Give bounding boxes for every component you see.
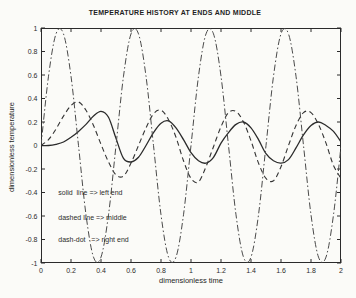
svg-text:-0.2: -0.2	[25, 166, 37, 173]
svg-text:0: 0	[34, 142, 38, 149]
svg-text:0.2: 0.2	[28, 119, 38, 126]
svg-text:0.4: 0.4	[96, 267, 106, 274]
svg-text:-0.6: -0.6	[25, 213, 37, 220]
svg-text:1.2: 1.2	[216, 267, 226, 274]
legend-annotation-2: dash-dot => right end	[58, 236, 129, 244]
svg-text:1.8: 1.8	[306, 267, 316, 274]
svg-text:-0.8: -0.8	[25, 236, 37, 243]
svg-text:1.4: 1.4	[246, 267, 256, 274]
legend-annotation-1: dashed line => middle	[58, 214, 127, 221]
svg-text:0: 0	[39, 267, 43, 274]
svg-text:-0.4: -0.4	[25, 189, 37, 196]
legend-annotation-0: solid line => left end	[58, 189, 122, 196]
svg-text:0.8: 0.8	[28, 48, 38, 55]
svg-text:0.4: 0.4	[28, 95, 38, 102]
series-dash-dot-right-end	[41, 29, 341, 263]
svg-text:0.6: 0.6	[28, 72, 38, 79]
svg-text:1: 1	[34, 25, 38, 32]
svg-text:1: 1	[189, 267, 193, 274]
y-tick-labels: 10.80.60.40.20-0.2-0.4-0.6-0.8-1	[25, 25, 37, 267]
temperature-chart-figure: TEMPERATURE HISTORY AT ENDS AND MIDDLE d…	[0, 0, 356, 298]
svg-text:2: 2	[339, 267, 343, 274]
svg-text:0.8: 0.8	[156, 267, 166, 274]
x-tick-labels: 00.20.40.60.811.21.41.61.82	[39, 267, 343, 274]
in-plot-legend: solid line => left enddashed line => mid…	[58, 189, 129, 244]
svg-text:-1: -1	[31, 260, 37, 267]
svg-text:0.6: 0.6	[126, 267, 136, 274]
plot-area: 00.20.40.60.811.21.41.61.8210.80.60.40.2…	[0, 0, 356, 298]
svg-text:0.2: 0.2	[66, 267, 76, 274]
series-solid-left-end	[41, 111, 341, 163]
svg-text:1.6: 1.6	[276, 267, 286, 274]
